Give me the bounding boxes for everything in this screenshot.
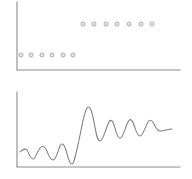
scatter-marker-core — [72, 54, 73, 55]
scatter-series-high-level-group — [81, 22, 154, 26]
waveform-panel-svg — [0, 88, 192, 179]
scatter-marker-core — [116, 23, 117, 24]
figure-canvas — [0, 0, 192, 179]
scatter-marker-core — [30, 54, 31, 55]
scatter-marker-core — [105, 23, 106, 24]
scatter-marker-core — [128, 23, 129, 24]
scatter-marker-core — [20, 54, 21, 55]
waveform-panel — [0, 88, 192, 179]
scatter-panel-axes — [17, 2, 180, 70]
scatter-marker-core — [51, 54, 52, 55]
scatter-marker-core — [93, 23, 94, 24]
scatter-marker-core — [41, 54, 42, 55]
scatter-panel-svg — [0, 0, 192, 88]
scatter-panel — [0, 0, 192, 88]
scatter-marker-core — [140, 23, 141, 24]
scatter-marker-core — [151, 23, 152, 24]
scatter-series-low-level-group — [19, 53, 75, 57]
waveform-panel-axes — [17, 92, 180, 167]
waveform-line — [20, 107, 172, 164]
scatter-marker-core — [82, 23, 83, 24]
scatter-marker-core — [62, 54, 63, 55]
